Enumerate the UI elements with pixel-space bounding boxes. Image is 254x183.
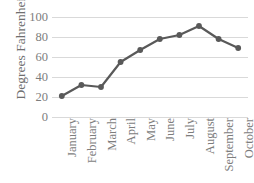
- x-axis-tick-label: May: [145, 118, 158, 141]
- x-axis-tick-label: August: [204, 118, 217, 154]
- data-point-marker: [216, 36, 222, 42]
- y-axis-tick-label: 80: [22, 31, 48, 44]
- x-axis-tick-labels: JanuaryFebruaryMarchAprilMayJuneJulyAugu…: [52, 118, 248, 183]
- data-point-marker: [157, 36, 163, 42]
- y-axis-tick-label: 60: [22, 51, 48, 64]
- x-axis-tick-label: July: [184, 118, 197, 139]
- y-axis-tick-label: 20: [22, 91, 48, 104]
- data-point-marker: [79, 82, 85, 88]
- y-axis-tick-labels: 020406080100: [22, 17, 48, 117]
- y-axis-tick-label: 40: [22, 71, 48, 84]
- x-axis-tick-label: March: [106, 118, 119, 151]
- data-point-marker: [118, 59, 124, 65]
- x-axis-tick-label: September: [223, 118, 236, 171]
- x-axis-tick-label: April: [125, 118, 138, 144]
- y-axis-tick-label: 0: [22, 111, 48, 124]
- data-point-marker: [137, 47, 143, 53]
- y-axis-tick-label: 100: [22, 11, 48, 24]
- plot-area: [52, 17, 248, 117]
- x-axis-tick-label: January: [66, 118, 79, 157]
- line-chart: Degrees Fahrenheit 020406080100 JanuaryF…: [0, 0, 254, 183]
- data-point-marker: [177, 32, 183, 38]
- x-axis-tick-label: October: [243, 118, 254, 158]
- data-point-marker: [59, 93, 65, 99]
- x-axis-tick-label: June: [164, 118, 177, 141]
- series-polyline: [62, 26, 238, 96]
- data-point-marker: [235, 45, 241, 51]
- data-series-line: [52, 17, 248, 117]
- data-point-marker: [196, 23, 202, 29]
- data-point-marker: [98, 84, 104, 90]
- x-axis-tick-label: February: [86, 118, 99, 163]
